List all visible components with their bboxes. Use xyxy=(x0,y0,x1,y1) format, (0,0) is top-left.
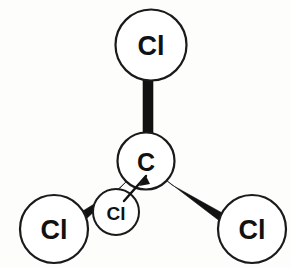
atom-label-carbon-center: C xyxy=(137,148,155,176)
molecule-canvas: C Cl Cl Cl Cl xyxy=(0,0,291,268)
bond-c-cl-top xyxy=(143,80,153,135)
atom-label-chlorine-top: Cl xyxy=(138,31,165,61)
bond-c-cl-bottom-right xyxy=(166,180,224,222)
atom-label-chlorine-bottom-left: Cl xyxy=(41,215,68,245)
molecule-diagram: C Cl Cl Cl Cl xyxy=(0,0,291,268)
atom-label-chlorine-bottom-right: Cl xyxy=(239,215,266,245)
atom-label-chlorine-back-small: Cl xyxy=(107,203,126,224)
